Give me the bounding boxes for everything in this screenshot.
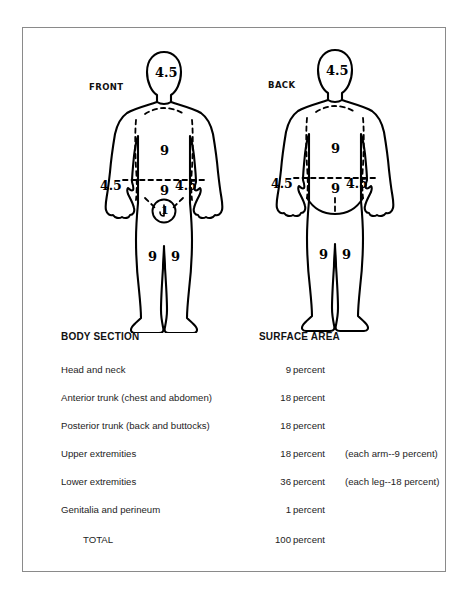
total-label: TOTAL (83, 534, 113, 545)
front-left-arm-percent: 4.5 (100, 180, 122, 193)
back-left-leg-percent: 9 (319, 248, 328, 261)
table-row: Posterior trunk (back and buttocks) 18 p… (23, 420, 447, 440)
back-left-arm-percent: 4.5 (271, 178, 293, 191)
body-diagram-area: FRONT 4.5 9 9 4.5 4.5 1 9 9 BACK 4.5 9 9… (23, 28, 447, 333)
row-unit: percent (293, 364, 325, 375)
back-lower-back-percent: 9 (331, 182, 340, 195)
row-amount: 36 (223, 476, 291, 487)
front-left-leg-percent: 9 (148, 250, 157, 263)
row-amount: 1 (223, 504, 291, 515)
row-unit: percent (293, 476, 325, 487)
row-amount: 9 (223, 364, 291, 375)
front-view-label: FRONT (89, 82, 124, 92)
row-section-label: Anterior trunk (chest and abdomen) (61, 392, 212, 403)
row-unit: percent (293, 448, 325, 459)
row-note: (each leg--18 percent) (345, 476, 439, 487)
table-row: Lower extremities 36 percent (each leg--… (23, 476, 447, 496)
front-abdomen-percent: 9 (160, 184, 169, 197)
row-amount: 18 (223, 420, 291, 431)
front-chest-percent: 9 (160, 144, 169, 157)
table-total-row: TOTAL 100 percent (23, 534, 447, 554)
table-row: Genitalia and perineum 1 percent (23, 504, 447, 524)
back-right-arm-percent: 4.5 (346, 178, 368, 191)
table-header-row: BODY SECTION SURFACE AREA (23, 331, 447, 351)
back-upper-back-percent: 9 (331, 142, 340, 155)
row-section-label: Upper extremities (61, 448, 136, 459)
document-frame: FRONT 4.5 9 9 4.5 4.5 1 9 9 BACK 4.5 9 9… (22, 27, 446, 572)
front-right-arm-percent: 4.5 (175, 180, 197, 193)
table-row: Head and neck 9 percent (23, 364, 447, 384)
row-section-label: Lower extremities (61, 476, 136, 487)
row-amount: 18 (223, 448, 291, 459)
table-row: Upper extremities 18 percent (each arm--… (23, 448, 447, 468)
total-unit: percent (293, 534, 325, 545)
page-canvas: FRONT 4.5 9 9 4.5 4.5 1 9 9 BACK 4.5 9 9… (0, 0, 469, 589)
row-unit: percent (293, 420, 325, 431)
header-surface-area: SURFACE AREA (259, 331, 340, 342)
row-note: (each arm--9 percent) (345, 448, 438, 459)
back-head-percent: 4.5 (326, 64, 349, 77)
header-body-section: BODY SECTION (61, 331, 139, 342)
back-body-figure (23, 28, 447, 333)
row-unit: percent (293, 504, 325, 515)
back-right-leg-percent: 9 (342, 248, 351, 261)
front-right-leg-percent: 9 (171, 250, 180, 263)
row-section-label: Posterior trunk (back and buttocks) (61, 420, 210, 431)
row-section-label: Genitalia and perineum (61, 504, 160, 515)
row-section-label: Head and neck (61, 364, 126, 375)
front-head-percent: 4.5 (155, 66, 178, 79)
row-amount: 18 (223, 392, 291, 403)
table-row: Anterior trunk (chest and abdomen) 18 pe… (23, 392, 447, 412)
row-unit: percent (293, 392, 325, 403)
back-view-label: BACK (268, 80, 295, 90)
total-amount: 100 (223, 534, 291, 545)
front-genitalia-percent: 1 (161, 205, 169, 216)
